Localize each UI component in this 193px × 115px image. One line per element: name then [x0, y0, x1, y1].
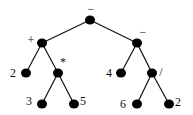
operand-node — [69, 100, 79, 109]
tree-edge — [42, 20, 90, 43]
node-label: − — [140, 25, 147, 39]
tree-edge — [137, 43, 152, 73]
operator-node — [85, 16, 95, 25]
tree-edge — [42, 43, 58, 73]
tree-edge — [26, 43, 42, 73]
operand-node — [164, 100, 174, 109]
node-label: 6 — [120, 97, 126, 111]
operator-node — [37, 39, 47, 48]
node-label: 4 — [106, 66, 112, 80]
tree-edge — [121, 43, 137, 73]
tree-nodes — [21, 16, 174, 109]
node-label: 2 — [10, 66, 16, 80]
node-label: 5 — [80, 94, 86, 108]
operator-node — [147, 69, 157, 78]
tree-edge — [90, 20, 137, 43]
node-label: 2 — [175, 95, 181, 109]
expression-tree-diagram: −+−2*4/3562 — [0, 0, 193, 115]
tree-labels: −+−2*4/3562 — [10, 2, 181, 111]
tree-edge — [58, 73, 74, 104]
tree-edge — [42, 73, 58, 104]
tree-edges — [26, 20, 169, 104]
tree-edge — [137, 73, 152, 104]
operand-node — [21, 69, 31, 78]
operator-node — [132, 39, 142, 48]
node-label: + — [28, 33, 35, 47]
node-label: / — [159, 65, 163, 79]
node-label: * — [60, 55, 66, 69]
operator-node — [53, 69, 63, 78]
operand-node — [132, 100, 142, 109]
node-label: 3 — [26, 94, 32, 108]
operand-node — [37, 100, 47, 109]
operand-node — [116, 69, 126, 78]
node-label: − — [88, 2, 95, 16]
